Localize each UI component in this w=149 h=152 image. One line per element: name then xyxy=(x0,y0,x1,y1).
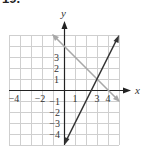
coordinate-plane: x y −4 −2 1 3 4 3 2 1 −1 −2 −3 −4 xyxy=(0,0,149,152)
x-axis-arrow-icon xyxy=(123,88,131,94)
y-tick-label: 2 xyxy=(54,63,59,74)
y-tick-label: −1 xyxy=(49,96,60,107)
y-axis-arrow-icon xyxy=(62,21,68,29)
y-tick-label: 1 xyxy=(54,74,59,85)
y-tick-label: 3 xyxy=(54,52,59,63)
x-tick-label: −2 xyxy=(35,93,46,104)
x-axis-label: x xyxy=(134,84,140,96)
dark-line-arrow-top-icon xyxy=(114,35,120,43)
y-tick-label: −4 xyxy=(49,129,60,140)
y-axis-label: y xyxy=(60,7,66,19)
dark-line-arrow-bottom-icon xyxy=(65,137,70,145)
x-tick-label: 4 xyxy=(106,93,111,104)
y-tick-label: −2 xyxy=(49,107,60,118)
x-tick-label: 1 xyxy=(73,93,78,104)
x-tick-label: −4 xyxy=(9,93,20,104)
x-tick-label: 3 xyxy=(95,93,100,104)
y-tick-label: −3 xyxy=(49,118,60,129)
